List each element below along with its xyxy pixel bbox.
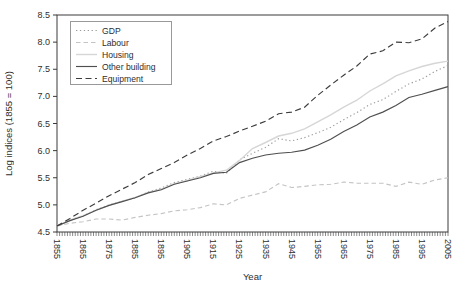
line-chart: 4.55.05.56.06.57.07.58.08.51855186518751… [0,0,468,294]
x-tick-label: 1885 [130,239,140,259]
x-tick-label: 1925 [234,239,244,259]
series-line-housing [57,61,448,226]
legend-label-housing: Housing [102,50,134,60]
x-tick-label: 1965 [339,239,349,259]
x-axis-title: Year [57,271,448,282]
x-tick-label: 1955 [313,239,323,259]
series-line-labour [57,178,448,226]
y-axis-title: Log indices (1855 = 100) [3,15,17,232]
x-tick-label: 2005 [443,239,453,259]
x-tick-label: 1855 [52,239,62,259]
legend-label-other-building: Other building [102,62,156,72]
series-line-other-building [57,87,448,226]
legend-label-labour: Labour [102,38,129,48]
x-tick-label: 1985 [391,239,401,259]
y-tick-label: 5.0 [37,200,50,210]
y-tick-label: 7.0 [37,91,50,101]
x-tick-label: 1915 [208,239,218,259]
x-tick-label: 1875 [104,239,114,259]
legend-label-gdp: GDP [102,26,121,36]
x-tick-label: 1975 [365,239,375,259]
y-tick-label: 4.5 [37,227,50,237]
y-tick-label: 7.5 [37,64,50,74]
x-tick-label: 1995 [417,239,427,259]
series-line-gdp [57,66,448,227]
x-tick-label: 1895 [156,239,166,259]
y-tick-label: 8.5 [37,10,50,20]
x-tick-label: 1935 [261,239,271,259]
y-tick-label: 6.0 [37,146,50,156]
y-tick-label: 8.0 [37,37,50,47]
plot-canvas: 4.55.05.56.06.57.07.58.08.51855186518751… [0,0,468,294]
x-tick-label: 1945 [287,239,297,259]
y-tick-label: 6.5 [37,119,50,129]
legend-label-equipment: Equipment [102,74,144,84]
x-tick-label: 1865 [78,239,88,259]
x-tick-label: 1905 [182,239,192,259]
y-tick-label: 5.5 [37,173,50,183]
